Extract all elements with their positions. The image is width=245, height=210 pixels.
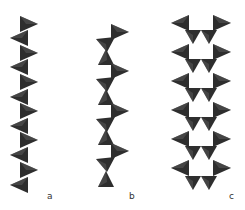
tetrahedron-icon	[10, 89, 28, 105]
panel-a-single-chain	[10, 16, 38, 193]
tetrahedron-icon	[185, 88, 201, 102]
tetrahedron-icon	[201, 30, 217, 44]
tetrahedron-icon	[171, 15, 189, 31]
tetrahedron-icon	[185, 30, 201, 44]
tetrahedron-icon	[20, 132, 38, 148]
tetrahedron-icon	[213, 160, 231, 176]
tetrahedron-icon	[171, 73, 189, 89]
tetrahedron-icon	[185, 59, 201, 73]
tetrahedron-icon	[20, 162, 38, 178]
tetrahedron-icon	[20, 74, 38, 90]
tetrahedron-icon	[10, 177, 28, 193]
panel-label-b: b	[129, 192, 135, 201]
tetrahedron-icon	[111, 63, 129, 79]
tetrahedron-icon	[171, 102, 189, 118]
tetrahedron-icon	[185, 146, 201, 160]
tetrahedron-icon	[10, 30, 28, 46]
panel-label-a: a	[47, 192, 53, 201]
tetrahedron-icon	[201, 88, 217, 102]
tetrahedron-icon	[201, 117, 217, 131]
tetrahedron-icon	[213, 15, 231, 31]
tetrahedron-icon	[20, 45, 38, 61]
tetrahedron-icon	[98, 49, 114, 65]
tetrahedron-icon	[98, 129, 114, 145]
tetrahedron-icon	[20, 16, 38, 32]
tetrahedron-icon	[111, 103, 129, 119]
tetrahedron-icon	[98, 89, 114, 105]
tetrahedron-icon	[185, 117, 201, 131]
tetrahedron-icon	[98, 171, 114, 187]
tetrahedron-icon	[10, 118, 28, 134]
tetrahedron-icon	[111, 143, 129, 159]
tetrahedron-icon	[201, 146, 217, 160]
tetrahedron-icon	[213, 44, 231, 60]
tetrahedron-icon	[171, 131, 189, 147]
panel-c-double-chain	[171, 15, 231, 190]
tetrahedron-icon	[96, 77, 115, 92]
tetrahedron-icon	[201, 59, 217, 73]
tetrahedron-icon	[96, 37, 115, 52]
tetrahedron-icon	[213, 131, 231, 147]
tetrahedron-icon	[185, 176, 201, 190]
tetrahedron-icon	[201, 176, 217, 190]
tetrahedron-icon	[213, 73, 231, 89]
tetrahedron-icon	[171, 160, 189, 176]
tetrahedron-icon	[10, 147, 28, 163]
tetrahedron-icon	[213, 102, 231, 118]
tetrahedron-icon	[10, 59, 28, 75]
tetrahedron-icon	[96, 117, 115, 132]
silicate-chain-figure	[0, 0, 245, 210]
tetrahedron-icon	[171, 44, 189, 60]
panel-label-c: c	[229, 192, 234, 201]
tetrahedron-icon	[20, 103, 38, 119]
tetrahedron-icon	[96, 157, 115, 172]
panel-b-zigzag-chain	[96, 24, 129, 187]
